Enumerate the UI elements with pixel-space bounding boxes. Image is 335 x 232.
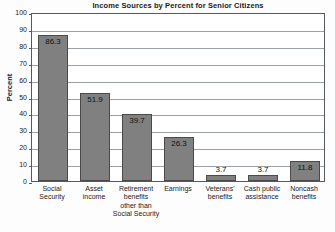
y-tick-label: 0	[0, 178, 27, 185]
y-tick-label: 60	[0, 77, 27, 84]
chart-screenshot: Income Sources by Percent for Senior Cit…	[0, 0, 335, 232]
y-tick-label: 70	[0, 60, 27, 67]
bar-value-label: 39.7	[129, 116, 145, 125]
gridline	[32, 48, 324, 49]
gridline	[32, 31, 324, 32]
bar-value-label: 11.8	[298, 163, 313, 172]
bar	[206, 175, 235, 181]
chart-title: Income Sources by Percent for Senior Cit…	[31, 1, 325, 10]
gridline	[32, 82, 324, 83]
x-category-label: Noncashbenefits	[277, 185, 331, 202]
bar-value-label: 51.9	[87, 95, 103, 104]
bar-value-label: 86.3	[45, 37, 61, 46]
x-category-label-line: benefits	[109, 193, 163, 201]
bar	[248, 175, 277, 181]
y-tick-label: 90	[0, 26, 27, 33]
gridline	[32, 99, 324, 100]
gridline	[32, 65, 324, 66]
y-tick-label: 50	[0, 94, 27, 101]
gridline	[32, 132, 324, 133]
bar-value-label: 3.7	[257, 165, 268, 174]
y-tick-mark	[29, 149, 32, 150]
gridline	[32, 115, 324, 116]
x-category-label-line: Noncash	[277, 185, 331, 193]
y-tick-mark	[29, 183, 32, 184]
bar-value-label: 26.3	[171, 139, 187, 148]
y-tick-mark	[29, 14, 32, 15]
y-tick-label: 100	[0, 9, 27, 16]
y-tick-label: 20	[0, 144, 27, 151]
y-tick-mark	[29, 132, 32, 133]
x-category-label-line: Social Security	[109, 210, 163, 218]
x-category-label-line: other than	[109, 202, 163, 210]
bar	[38, 35, 67, 181]
y-tick-mark	[29, 82, 32, 83]
y-tick-mark	[29, 166, 32, 167]
bar	[80, 93, 109, 181]
y-tick-mark	[29, 99, 32, 100]
plot-area: 86.351.939.726.33.73.711.8	[31, 13, 325, 182]
y-axis-title: Percent	[5, 63, 14, 113]
bar-value-label: 3.7	[215, 165, 226, 174]
y-tick-label: 80	[0, 43, 27, 50]
y-tick-label: 30	[0, 127, 27, 134]
y-tick-mark	[29, 65, 32, 66]
y-tick-mark	[29, 31, 32, 32]
y-tick-label: 40	[0, 110, 27, 117]
x-category-label-line: benefits	[277, 193, 331, 201]
y-tick-mark	[29, 115, 32, 116]
y-tick-mark	[29, 48, 32, 49]
y-tick-label: 10	[0, 161, 27, 168]
